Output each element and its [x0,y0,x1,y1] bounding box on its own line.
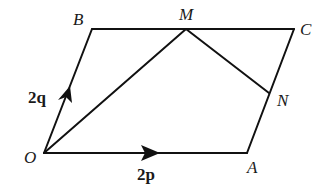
parallelogram-diagram: B M C N O A 2q 2p [0,0,331,196]
label-M: M [178,5,194,24]
label-A: A [246,158,258,177]
diagram-canvas: B M C N O A 2q 2p [0,0,331,196]
label-C: C [300,20,312,39]
label-2q-num: 2 [28,88,37,107]
label-B: B [73,10,84,29]
label-2q: 2q [28,88,47,107]
edge-OM [44,29,186,153]
label-2p: 2p [137,165,155,184]
label-N: N [276,91,290,110]
label-2p-num: 2 [137,165,146,184]
label-2q-vec: q [37,88,47,107]
edge-MN [186,29,269,93]
label-2p-vec: p [146,165,155,184]
label-O: O [24,148,36,167]
